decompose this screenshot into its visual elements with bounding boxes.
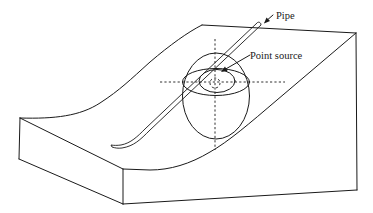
left-top-edge	[20, 118, 123, 169]
point-source-label: Point source	[250, 50, 303, 61]
front-bottom-edge	[123, 190, 357, 204]
pipe-label: Pipe	[276, 10, 295, 21]
point-source-leader-line	[224, 55, 250, 70]
pipe-label-group: Pipe	[264, 10, 295, 24]
point-source-label-group: Point source	[221, 50, 303, 72]
left-vertical-edge	[19, 118, 20, 159]
left-profile-curve	[20, 25, 202, 118]
pipe-end-cap	[257, 22, 261, 25]
front-slope-curve	[123, 33, 356, 170]
plume-ellipses	[183, 53, 250, 139]
right-vertical-edge	[356, 33, 357, 190]
left-bottom-edge	[19, 159, 123, 204]
rear-top-edge	[202, 25, 356, 33]
hillslope-diagram: Pipe Point source	[0, 0, 373, 213]
pipe	[111, 22, 261, 148]
slope-block	[19, 25, 357, 204]
pipe-upper-edge	[112, 25, 261, 148]
